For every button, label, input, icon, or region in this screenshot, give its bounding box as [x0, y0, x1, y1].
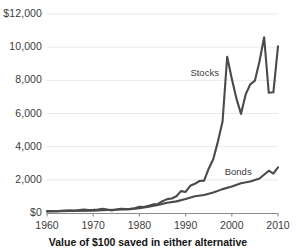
stocks-series-label: Stocks	[190, 67, 219, 78]
x-axis-tick-label: 1960	[25, 219, 69, 231]
series-line-stocks	[47, 37, 278, 211]
chart-container: $12,00010,0008,0006,0004,0002,000$0 1960…	[0, 0, 296, 252]
bonds-series-label: Bonds	[225, 166, 252, 177]
x-axis-tick-label: 2000	[210, 219, 254, 231]
y-axis-tick-label: 2,000	[0, 173, 42, 185]
y-axis-tick-label: 6,000	[0, 107, 42, 119]
y-axis-tick-label: $0	[0, 206, 42, 218]
gridlines	[47, 14, 278, 180]
y-axis-tick-label: $12,000	[0, 7, 42, 19]
x-axis-tick-label: 1970	[71, 219, 115, 231]
y-axis-tick-label: 8,000	[0, 73, 42, 85]
y-axis-tick-label: 10,000	[0, 40, 42, 52]
chart-caption: Value of $100 saved in either alternativ…	[0, 236, 296, 248]
x-axis-tick-label: 1990	[164, 219, 208, 231]
y-axis-tick-label: 4,000	[0, 140, 42, 152]
x-axis-tick-label: 1980	[117, 219, 161, 231]
line-chart-plot	[0, 0, 296, 252]
x-axis-tick-label: 2010	[256, 219, 296, 231]
